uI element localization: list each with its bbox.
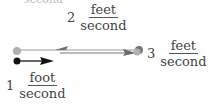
numerator: feet (169, 39, 198, 54)
coefficient: 2 (67, 10, 75, 25)
gray-dot-right (134, 49, 141, 56)
label-v2: 2 feet second (67, 3, 128, 32)
fraction: feet second (78, 3, 128, 32)
gray-dot-left (13, 47, 21, 55)
denominator: second (17, 86, 67, 100)
denominator: second (158, 54, 208, 68)
fraction: feet second (158, 39, 208, 68)
numerator: foot (28, 71, 58, 86)
coefficient: 1 (6, 78, 14, 93)
numerator: feet (89, 3, 118, 18)
black-dot (14, 58, 21, 65)
denominator: second (78, 18, 128, 32)
label-v3: 3 feet second (147, 39, 208, 68)
black-arrowhead-icon (40, 57, 54, 65)
fraction: foot second (17, 71, 67, 100)
coefficient: 3 (147, 46, 155, 61)
label-v1: 1 foot second (6, 71, 67, 100)
arrowhead-left-icon (55, 46, 68, 50)
